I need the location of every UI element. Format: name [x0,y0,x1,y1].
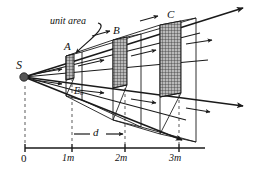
irradiance-label: Eo [74,85,84,96]
flux-arrow-8 [186,108,210,112]
patch-A [66,54,74,80]
axis-tick-2m: 2m [115,152,127,163]
source-point [20,73,28,81]
axis-tick-0: 0 [21,152,27,164]
patch-c-label: C [167,8,174,20]
patch-B [113,37,127,88]
irradiance-subscript: o [80,89,83,96]
ray-bottom [24,77,182,140]
flux-arrow-5 [131,50,156,56]
ray-middle [24,77,243,106]
axis-guide-lines [25,22,179,146]
patch-C [160,21,181,97]
source-label: S [16,58,22,73]
patch-a-label: A [64,40,71,52]
axis-tick-3m: 3m [169,152,181,163]
axis-tick-1m: 1m [62,152,74,163]
diagram-svg [0,0,259,172]
flux-arrow-10 [140,16,158,21]
flux-arrow-7 [186,40,212,44]
patch-b-label: B [113,24,120,36]
flux-arrow-6 [131,99,156,103]
figure-canvas: S unit area A B C Eo d 0 1m 2m 3m [0,0,259,172]
distance-axis [25,144,205,152]
unit-area-label: unit area [50,15,86,26]
distance-label: d [93,126,99,138]
ray-cone [24,8,243,140]
